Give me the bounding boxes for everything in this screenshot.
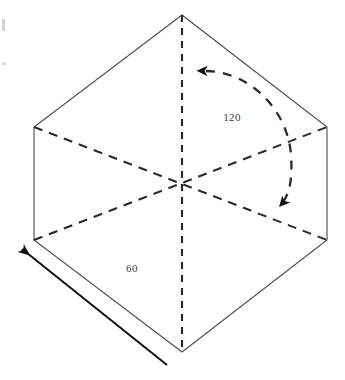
hexagon-outline (34, 15, 327, 352)
edge-length-label: 60 (126, 262, 138, 274)
angle-label: 120 (223, 111, 241, 123)
hexagon-rotation-diagram: 120 60 (0, 0, 345, 380)
figure-canvas: 120 60 (0, 0, 345, 380)
rotation-arc (206, 71, 291, 206)
edge-dimension-arrow (22, 249, 167, 365)
